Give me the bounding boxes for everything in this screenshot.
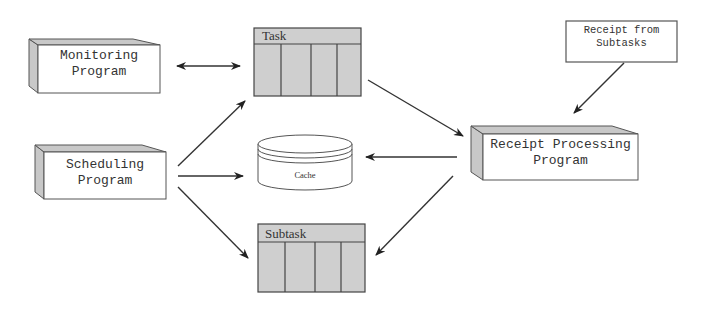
arrow-receipt-subtask: [376, 176, 453, 255]
monitoring-line1: Monitoring: [38, 48, 160, 64]
receipt-processing-label: Receipt Processing Program: [483, 137, 638, 170]
arrow-scheduling-subtask: [178, 187, 248, 258]
receipt-processing-line1: Receipt Processing: [483, 137, 638, 153]
monitoring-line2: Program: [38, 64, 160, 80]
cache-cylinder: [258, 135, 352, 190]
subtask-label: Subtask: [265, 226, 306, 242]
receipt-from-line2: Subtasks: [566, 37, 677, 50]
arrow-task-receipt: [368, 80, 463, 136]
arrow-scheduling-task: [178, 101, 245, 166]
cache-label: Cache: [258, 170, 352, 181]
receipt-from-subtasks-label: Receipt from Subtasks: [566, 24, 677, 50]
scheduling-line1: Scheduling: [44, 157, 166, 173]
task-label: Task: [262, 28, 286, 44]
receipt-from-line1: Receipt from: [566, 24, 677, 37]
monitoring-program-label: Monitoring Program: [38, 48, 160, 81]
receipt-processing-line2: Program: [483, 153, 638, 169]
scheduling-program-label: Scheduling Program: [44, 157, 166, 190]
arrow-receipt-from-subtasks: [574, 63, 624, 113]
scheduling-line2: Program: [44, 173, 166, 189]
